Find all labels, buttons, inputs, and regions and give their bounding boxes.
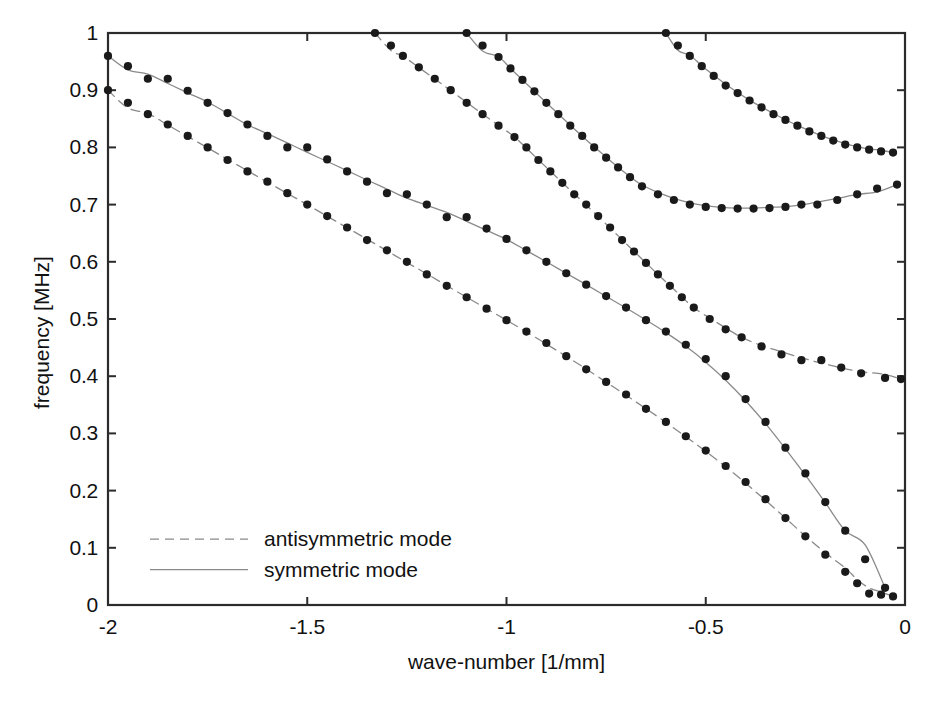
data-point [769,110,777,118]
data-point [542,258,550,266]
data-point [371,29,379,37]
data-point [777,350,785,358]
data-point [630,247,638,255]
y-axis-label: frequency [MHz] [30,256,54,409]
data-point [686,52,694,60]
data-point [243,167,251,175]
data-point [606,223,614,231]
data-point [765,204,773,212]
data-point [682,341,690,349]
data-point [582,281,590,289]
data-point [323,212,331,220]
data-point [283,189,291,197]
data-point [670,196,678,204]
data-point [546,167,554,175]
data-point [566,122,574,130]
data-point [443,213,451,221]
data-point [542,99,550,107]
data-point [323,155,331,163]
data-point [204,99,212,107]
data-point [164,75,172,83]
figure-container: 00.10.20.30.40.50.60.70.80.91 -2-1.5-1-0… [0,0,939,701]
data-point [797,356,805,364]
data-point [223,156,231,164]
data-point [104,52,112,60]
data-point [877,591,885,599]
data-point [893,180,901,188]
data-point [738,333,746,341]
data-point [797,201,805,209]
y-tick-label: 0 [87,593,98,617]
data-point [722,325,730,333]
data-point [722,462,730,470]
data-point [682,432,690,440]
data-point [642,316,650,324]
data-point [582,201,590,209]
data-point [638,182,646,190]
y-tick-label: 1 [87,21,98,45]
data-point [204,143,212,151]
data-point [662,327,670,335]
data-point [897,375,905,383]
data-point [263,178,271,186]
y-tick-label: 0.3 [69,421,98,445]
data-point [463,293,471,301]
data-point [602,154,610,162]
data-point [443,282,451,290]
x-tick-label: -0.5 [688,615,723,639]
data-point [817,356,825,364]
data-point [502,316,510,324]
data-point [853,143,861,151]
data-point [463,213,471,221]
data-point [837,364,845,372]
data-point [829,136,837,144]
data-point [686,201,694,209]
data-point [502,235,510,243]
data-point [582,365,590,373]
data-point [881,374,889,382]
data-point [522,327,530,335]
data-point [403,258,411,266]
data-point [562,269,570,277]
data-point [243,120,251,128]
data-point [590,143,598,151]
data-point [793,122,801,130]
data-point [614,163,622,171]
data-point [817,132,825,140]
data-point [164,120,172,128]
data-point [184,87,192,95]
data-point [124,62,132,70]
data-point [562,352,570,360]
y-tick-label: 0.6 [69,250,98,274]
data-point [722,372,730,380]
data-point [674,41,682,49]
data-point [749,205,757,213]
data-point [781,116,789,124]
data-point [506,64,514,72]
data-point [702,355,710,363]
data-point [841,568,849,576]
data-point [363,236,371,244]
data-point [745,96,753,104]
data-point [698,62,706,70]
x-tick-label: 0 [899,615,910,639]
data-point [801,469,809,477]
data-point [662,418,670,426]
data-point [821,498,829,506]
data-point [542,339,550,347]
data-point [801,532,809,540]
data-point [761,418,769,426]
data-point [494,122,502,130]
data-point [399,52,407,60]
data-point [761,495,769,503]
data-point [303,201,311,209]
data-point [343,223,351,231]
data-point [482,225,490,233]
data-point [423,201,431,209]
y-tick-label: 0.8 [69,135,98,159]
y-tick-label: 0.9 [69,78,98,102]
data-point [857,369,865,377]
y-tick-label: 0.5 [69,307,98,331]
data-point [710,72,718,80]
data-point [841,140,849,148]
